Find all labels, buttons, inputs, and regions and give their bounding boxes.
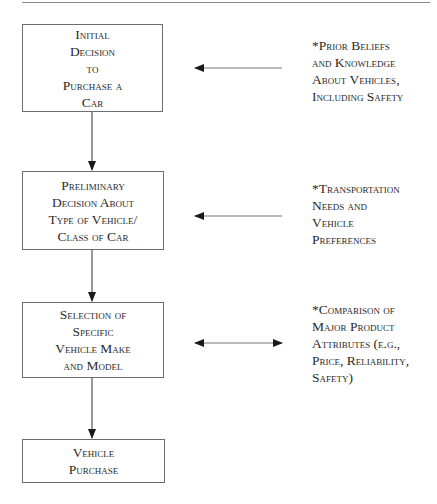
step-line: Preliminary bbox=[61, 177, 125, 194]
influence-prior-beliefs: *Prior Beliefs and Knowledge About Vehic… bbox=[312, 37, 403, 105]
note-line: Needs and bbox=[312, 197, 400, 214]
note-line: About Vehicles, bbox=[312, 71, 403, 88]
influence-attribute-comparison: *Comparison of Major Product Attributes … bbox=[312, 301, 409, 386]
note-line: Major Product bbox=[312, 318, 409, 335]
note-line: *Prior Beliefs bbox=[312, 37, 403, 54]
step-preliminary-decision: Preliminary Decision About Type of Vehic… bbox=[22, 171, 164, 250]
note-line: Preferences bbox=[312, 231, 400, 248]
note-line: Price, Reliability, bbox=[312, 352, 409, 369]
step-line: Vehicle bbox=[73, 444, 115, 461]
step-selection-make-model: Selection of Specific Vehicle Make and M… bbox=[22, 302, 164, 378]
step-initial-decision: Initial Decision to Purchase a Car bbox=[22, 24, 163, 112]
step-line: Class of Car bbox=[58, 228, 129, 245]
step-line: and Model bbox=[64, 357, 123, 374]
step-line: Purchase bbox=[69, 461, 119, 478]
note-line: Attributes (e.g., bbox=[312, 335, 409, 352]
note-line: *Comparison of bbox=[312, 301, 409, 318]
step-line: Decision bbox=[70, 43, 115, 60]
note-line: Including Safety bbox=[312, 88, 403, 105]
step-line: Vehicle Make bbox=[55, 340, 131, 357]
step-line: Specific bbox=[72, 323, 113, 340]
note-line: *Transportation bbox=[312, 180, 400, 197]
step-line: Initial bbox=[75, 26, 109, 43]
step-line: Selection of bbox=[60, 306, 126, 323]
note-line: Safety) bbox=[312, 369, 409, 386]
step-vehicle-purchase: Vehicle Purchase bbox=[22, 439, 165, 483]
step-line: Car bbox=[82, 94, 104, 111]
step-line: Type of Vehicle/ bbox=[49, 211, 138, 228]
note-line: Vehicle bbox=[312, 214, 400, 231]
step-line: Purchase a bbox=[63, 77, 122, 94]
note-line: and Knowledge bbox=[312, 54, 403, 71]
step-line: to bbox=[87, 60, 99, 77]
influence-transportation-needs: *Transportation Needs and Vehicle Prefer… bbox=[312, 180, 400, 248]
step-line: Decision About bbox=[52, 194, 134, 211]
